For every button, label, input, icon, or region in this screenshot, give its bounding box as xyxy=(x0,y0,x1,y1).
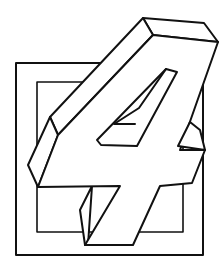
numeral-four-drawing xyxy=(0,0,223,270)
illustration-canvas: 4 xyxy=(0,0,223,270)
